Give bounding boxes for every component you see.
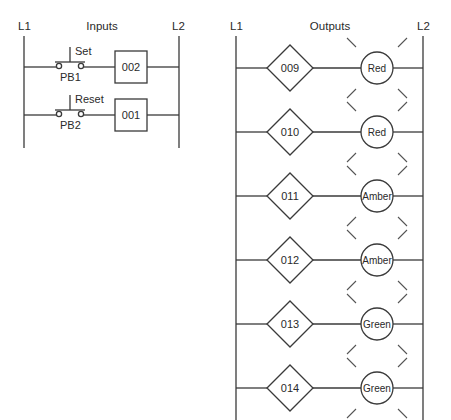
pushbutton-label: Set <box>75 45 92 57</box>
outputs-title: Outputs <box>310 20 351 32</box>
outputs-ladder: L1 Outputs L2 009Red010Red011Amber012Amb… <box>230 20 430 420</box>
contact-terminal-icon <box>78 63 83 68</box>
output-rung-2: 010Red <box>236 102 423 162</box>
output-address: 013 <box>281 318 299 330</box>
contact-terminal-icon <box>56 111 61 116</box>
outputs-left-rail-label: L1 <box>230 20 243 32</box>
output-address: 009 <box>281 62 299 74</box>
input-address: 001 <box>122 109 140 121</box>
input-address: 002 <box>122 61 140 73</box>
inputs-ladder: L1 Inputs L2 Set PB1 002 Reset <box>18 20 185 148</box>
output-rung-4: 012Amber <box>236 230 423 290</box>
contact-terminal-icon <box>56 63 61 68</box>
lamp-color-label: Green <box>363 383 391 394</box>
pushbutton-id: PB2 <box>60 119 81 131</box>
output-address: 012 <box>281 254 299 266</box>
output-address: 011 <box>281 190 299 202</box>
output-rung-1: 009Red <box>236 38 423 98</box>
pushbutton-label: Reset <box>75 93 104 105</box>
pushbutton-id: PB1 <box>60 71 81 83</box>
lamp-color-label: Red <box>368 127 386 138</box>
output-address: 010 <box>281 126 299 138</box>
output-rung-6: 014Green <box>236 358 423 418</box>
ladder-diagram: L1 Inputs L2 Set PB1 002 Reset <box>0 0 451 420</box>
output-rung-3: 011Amber <box>236 166 423 226</box>
lamp-color-label: Amber <box>362 255 392 266</box>
inputs-left-rail-label: L1 <box>18 20 31 32</box>
lamp-color-label: Green <box>363 319 391 330</box>
contact-terminal-icon <box>78 111 83 116</box>
lamp-color-label: Amber <box>362 191 392 202</box>
input-rung-2: Reset PB2 001 <box>24 93 179 131</box>
inputs-right-rail-label: L2 <box>172 20 185 32</box>
lamp-color-label: Red <box>368 63 386 74</box>
output-rung-5: 013Green <box>236 294 423 354</box>
output-address: 014 <box>281 382 299 394</box>
input-rung-1: Set PB1 002 <box>24 45 179 83</box>
outputs-right-rail-label: L2 <box>417 20 430 32</box>
inputs-title: Inputs <box>86 20 118 32</box>
